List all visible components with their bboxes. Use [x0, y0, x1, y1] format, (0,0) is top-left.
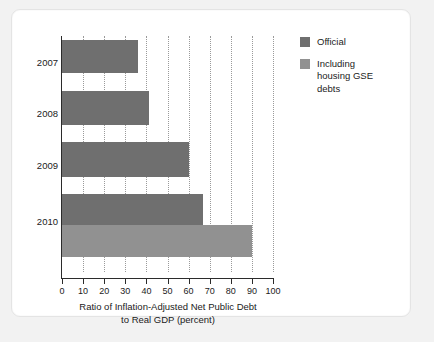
bar-2010-including-gse — [62, 225, 252, 257]
x-axis-title-line-2: to Real GDP (percent) — [32, 313, 304, 326]
xtick-30 — [125, 279, 126, 284]
legend: Official Including housing GSE debts — [300, 36, 410, 104]
legend-label-gse-line-2: housing GSE — [317, 70, 373, 83]
plot-area — [62, 36, 273, 272]
legend-swatch-official — [300, 37, 310, 47]
legend-swatch-including-gse — [300, 59, 310, 69]
y-axis-line — [61, 36, 62, 279]
legend-label-including-gse: Including housing GSE debts — [317, 58, 373, 96]
legend-item-official: Official — [300, 36, 410, 49]
chart-screenshot: 0 10 20 30 40 50 60 70 80 90 100 2007 20… — [0, 0, 434, 342]
bar-2010-official — [62, 194, 203, 225]
xtick-20 — [104, 279, 105, 284]
xtick-80 — [231, 279, 232, 284]
ylabel-2009: 2009 — [24, 160, 58, 171]
xtick-100 — [273, 279, 274, 284]
bar-2007-official — [62, 40, 138, 73]
chart-card: 0 10 20 30 40 50 60 70 80 90 100 2007 20… — [11, 9, 411, 317]
legend-label-official: Official — [317, 36, 346, 49]
x-axis-title: Ratio of Inflation-Adjusted Net Public D… — [32, 300, 304, 326]
xtick-0 — [62, 279, 63, 284]
bar-2008-official — [62, 91, 149, 125]
ylabel-2010: 2010 — [24, 216, 58, 227]
gridline-90 — [252, 36, 253, 272]
xtick-70 — [210, 279, 211, 284]
xtick-90 — [252, 279, 253, 284]
bar-2009-official — [62, 142, 189, 177]
xtick-50 — [168, 279, 169, 284]
legend-label-gse-line-1: Including — [317, 58, 373, 71]
ylabel-2008: 2008 — [24, 108, 58, 119]
gridline-100 — [273, 36, 274, 272]
xtick-label-100: 100 — [261, 285, 285, 297]
ylabel-2007: 2007 — [24, 57, 58, 68]
legend-label-official-line-1: Official — [317, 36, 346, 49]
legend-label-gse-line-3: debts — [317, 83, 373, 96]
x-axis-title-line-1: Ratio of Inflation-Adjusted Net Public D… — [32, 300, 304, 313]
xtick-40 — [146, 279, 147, 284]
xtick-60 — [189, 279, 190, 284]
legend-item-including-gse: Including housing GSE debts — [300, 58, 410, 96]
xtick-10 — [83, 279, 84, 284]
